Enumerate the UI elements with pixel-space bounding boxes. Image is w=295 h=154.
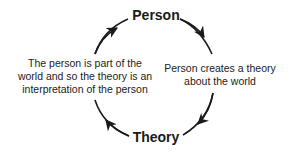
node-theory: Theory xyxy=(130,129,182,145)
edge-label-line: The person is part of the xyxy=(10,57,160,70)
edge-label-line: about the world xyxy=(160,75,280,88)
arc-person-to-right xyxy=(180,19,212,54)
arc-right-to-theory xyxy=(183,93,213,135)
edge-label-line: world and so the theory is an xyxy=(10,70,160,83)
edge-label-theory-to-person: The person is part of the world and so t… xyxy=(10,57,160,96)
edge-label-line: interpretation of the person xyxy=(10,83,160,96)
arc-theory-to-left xyxy=(95,100,129,136)
edge-label-person-to-theory: Person creates a theory about the world xyxy=(160,62,280,88)
node-person: Person xyxy=(128,7,184,23)
arc-left-to-person xyxy=(95,19,128,54)
edge-label-line: Person creates a theory xyxy=(160,62,280,75)
